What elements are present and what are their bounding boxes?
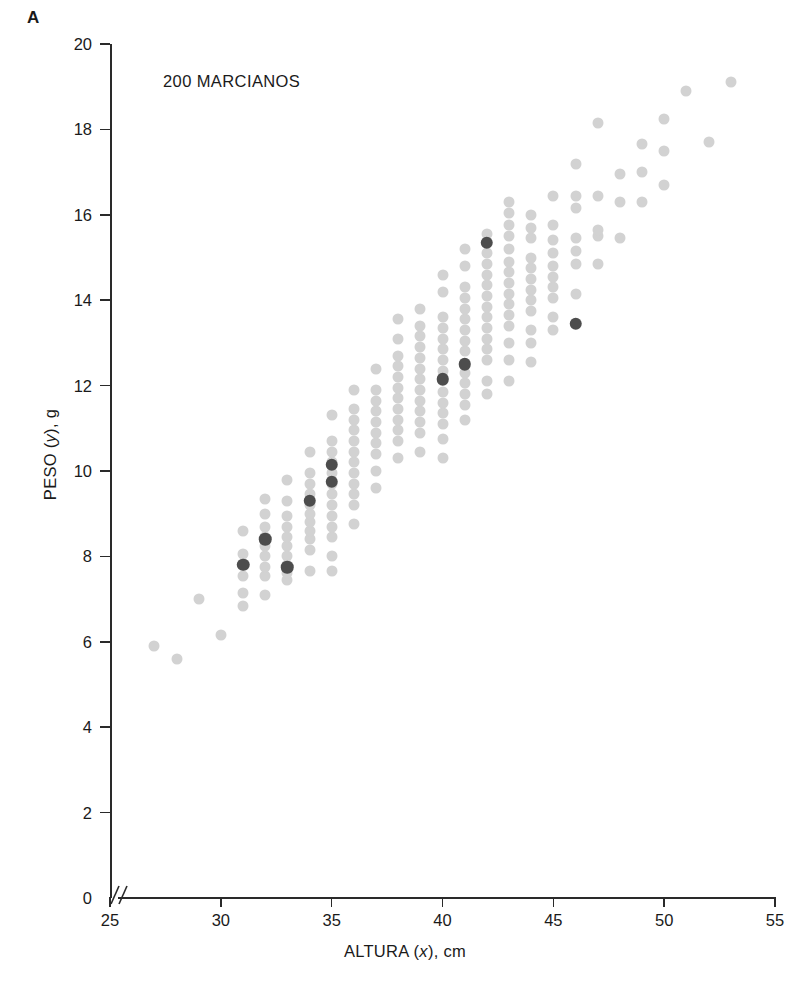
- data-point: [526, 357, 537, 368]
- data-point: [260, 493, 271, 504]
- data-point: [526, 263, 537, 274]
- data-point: [304, 446, 315, 457]
- data-point: [481, 344, 492, 355]
- data-point: [459, 303, 470, 314]
- data-point: [637, 167, 648, 178]
- data-point: [570, 233, 581, 244]
- data-point: [415, 342, 426, 353]
- x-tick-mark: [774, 897, 776, 907]
- y-axis-title-suffix: ), g: [41, 409, 59, 434]
- y-tick-label: 20: [48, 35, 92, 54]
- data-point: [504, 267, 515, 278]
- data-point: [481, 301, 492, 312]
- data-point: [326, 521, 337, 532]
- data-point: [348, 414, 359, 425]
- data-point: [637, 139, 648, 150]
- data-point: [393, 382, 404, 393]
- data-point-highlight: [303, 495, 316, 508]
- data-point: [238, 600, 249, 611]
- data-point-highlight: [436, 373, 449, 386]
- data-point: [481, 258, 492, 269]
- data-point: [437, 269, 448, 280]
- data-point: [348, 404, 359, 415]
- data-point: [326, 532, 337, 543]
- y-tick-mark: [100, 129, 110, 131]
- data-point: [193, 594, 204, 605]
- data-point: [304, 468, 315, 479]
- data-point: [570, 158, 581, 169]
- data-point: [570, 288, 581, 299]
- data-point: [437, 387, 448, 398]
- y-tick-mark: [100, 385, 110, 387]
- data-point: [437, 453, 448, 464]
- x-axis-title-suffix: ), cm: [428, 942, 466, 960]
- y-tick-label: 2: [48, 803, 92, 822]
- data-point: [614, 233, 625, 244]
- data-point: [415, 416, 426, 427]
- data-point: [459, 335, 470, 346]
- data-point-highlight: [281, 561, 294, 574]
- data-point: [481, 280, 492, 291]
- data-point: [371, 363, 382, 374]
- data-point: [326, 500, 337, 511]
- x-tick-label: 35: [306, 911, 358, 930]
- data-point: [481, 248, 492, 259]
- data-point: [348, 436, 359, 447]
- data-point: [481, 389, 492, 400]
- data-point: [393, 314, 404, 325]
- y-tick-mark: [100, 726, 110, 728]
- data-point: [415, 406, 426, 417]
- y-tick-mark: [100, 812, 110, 814]
- data-point: [570, 203, 581, 214]
- data-point: [437, 408, 448, 419]
- data-point: [437, 354, 448, 365]
- axis-break-icon: [107, 882, 133, 908]
- data-point: [393, 361, 404, 372]
- data-point: [459, 243, 470, 254]
- data-point: [393, 393, 404, 404]
- data-point: [282, 521, 293, 532]
- data-point: [592, 117, 603, 128]
- data-point: [348, 446, 359, 457]
- data-point: [592, 224, 603, 235]
- data-point: [437, 286, 448, 297]
- y-axis-line: [110, 44, 112, 898]
- y-axis-title-prefix: PESO (: [41, 442, 59, 500]
- y-tick-mark: [100, 43, 110, 45]
- data-point: [415, 303, 426, 314]
- data-point: [437, 344, 448, 355]
- data-point: [437, 312, 448, 323]
- x-tick-mark: [442, 897, 444, 907]
- y-tick-label: 0: [48, 889, 92, 908]
- data-point: [415, 395, 426, 406]
- data-point: [238, 587, 249, 598]
- data-point: [659, 113, 670, 124]
- data-point: [459, 261, 470, 272]
- data-point: [348, 519, 359, 530]
- data-point: [415, 446, 426, 457]
- data-point: [149, 641, 160, 652]
- x-tick-label: 30: [195, 911, 247, 930]
- data-point: [504, 278, 515, 289]
- data-point: [371, 384, 382, 395]
- data-point: [238, 525, 249, 536]
- x-tick-mark: [220, 897, 222, 907]
- y-tick-label: 6: [48, 632, 92, 651]
- y-axis-title-variable: y: [41, 434, 59, 443]
- data-point: [393, 372, 404, 383]
- data-point: [570, 258, 581, 269]
- data-point: [548, 293, 559, 304]
- data-point: [348, 468, 359, 479]
- data-point: [371, 448, 382, 459]
- data-point: [459, 414, 470, 425]
- data-point: [282, 495, 293, 506]
- data-point: [481, 269, 492, 280]
- x-tick-mark: [553, 897, 555, 907]
- data-point: [437, 419, 448, 430]
- y-tick-label: 16: [48, 205, 92, 224]
- data-point: [415, 331, 426, 342]
- data-point-highlight: [569, 317, 582, 330]
- data-point: [592, 190, 603, 201]
- data-point: [282, 532, 293, 543]
- x-axis-title: ALTURA (x), cm: [0, 942, 810, 961]
